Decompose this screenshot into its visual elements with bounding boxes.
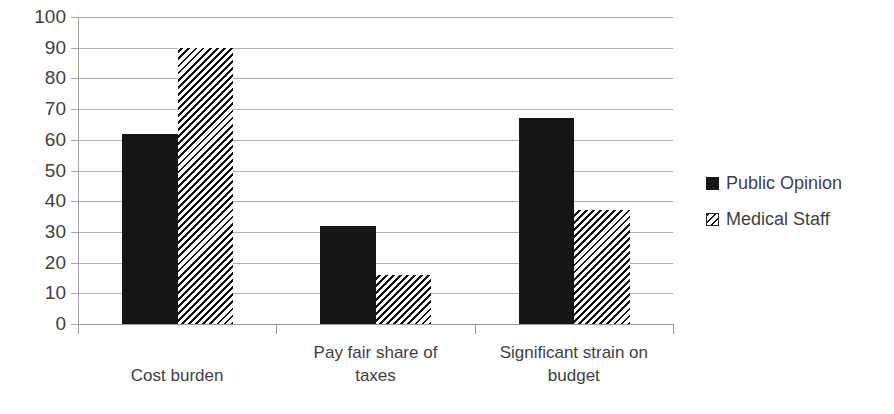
y-axis-tick-label: 80 [2,68,66,87]
legend-swatch-icon [706,213,719,226]
x-axis-category-label: Significant strain onbudget [475,341,673,387]
y-axis-tick-label: 20 [2,253,66,272]
x-axis-tick [475,325,476,334]
bar-medical-staff-1 [376,275,432,324]
y-axis-tick [71,293,79,294]
chart-legend: Public OpinionMedical Staff [706,165,886,237]
x-axis-tick [673,325,674,334]
legend-item: Medical Staff [706,201,886,237]
y-axis-tick [71,140,79,141]
category-label-line: taxes [276,364,474,387]
y-axis-tick [71,263,79,264]
category-label-line: Cost burden [78,364,276,387]
y-axis-tick-label: 90 [2,38,66,57]
legend-label: Medical Staff [726,209,830,229]
y-axis-tick-label: 0 [2,314,66,333]
y-axis-tick [71,78,79,79]
gridline [78,109,673,110]
legend-swatch-icon [706,177,719,190]
y-axis-tick-label: 100 [2,7,66,26]
y-axis-tick [71,201,79,202]
x-axis-tick [276,325,277,334]
bar-chart: 0102030405060708090100 Cost burdenPay fa… [0,0,894,414]
legend-item: Public Opinion [706,165,886,201]
y-axis-tick-label: 70 [2,99,66,118]
y-axis-labels: 0102030405060708090100 [0,0,66,414]
category-label-line: Pay fair share of [276,341,474,364]
legend-label: Public Opinion [726,173,842,193]
bar-public-opinion-0 [122,134,178,324]
x-axis-tick [78,325,79,334]
plot-area [78,17,673,324]
x-axis-line [78,324,674,325]
y-axis-tick-label: 30 [2,222,66,241]
bar-public-opinion-1 [320,226,376,324]
y-axis-tick [71,171,79,172]
bar-public-opinion-2 [519,118,575,324]
y-axis-tick [71,17,79,18]
bar-medical-staff-0 [178,48,234,324]
y-axis-tick-label: 50 [2,161,66,180]
category-label-line: budget [475,364,673,387]
y-axis-tick-label: 40 [2,191,66,210]
gridline [78,17,673,18]
y-axis-tick [71,109,79,110]
y-axis-tick-label: 10 [2,283,66,302]
gridline [78,48,673,49]
bar-medical-staff-2 [574,210,630,324]
x-axis-category-label: Cost burden [78,364,276,387]
y-axis-tick [71,232,79,233]
x-axis-category-label: Pay fair share oftaxes [276,341,474,387]
y-axis-tick [71,48,79,49]
category-label-line: Significant strain on [475,341,673,364]
y-axis-tick-label: 60 [2,130,66,149]
gridline [78,78,673,79]
